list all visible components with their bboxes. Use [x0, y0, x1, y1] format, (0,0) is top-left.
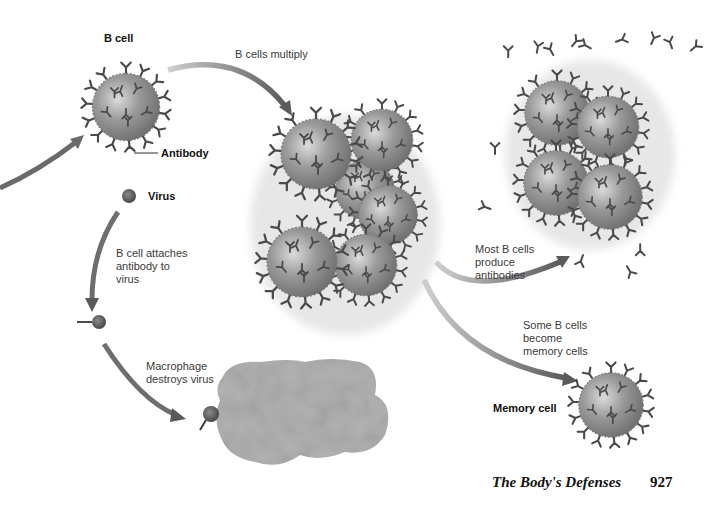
label-line: become: [523, 332, 588, 345]
label-memory-cell: Memory cell: [493, 402, 557, 415]
label-line: produce: [475, 256, 534, 269]
label-line: Some B cells: [523, 319, 588, 332]
label-line: destroys virus: [146, 373, 214, 386]
b-cell: [81, 63, 170, 152]
label-line: memory cells: [523, 345, 588, 358]
label-line: Most B cells: [475, 243, 534, 256]
label-b-cell-attaches: B cell attaches antibody to virus: [116, 247, 188, 286]
macrophage: [216, 359, 388, 465]
label-b-cells-multiply: B cells multiply: [235, 48, 308, 61]
label-line: B cell attaches: [116, 247, 188, 260]
antibody-bound-virus: [77, 315, 106, 329]
label-virus: Virus: [148, 190, 175, 203]
label-line: Macrophage: [146, 360, 214, 373]
arrow-virus-to-attach: [85, 212, 118, 312]
virus: [122, 189, 136, 203]
label-line: virus: [116, 273, 188, 286]
label-line: antibodies: [475, 269, 534, 282]
antibody-producing-cluster: [505, 60, 675, 250]
immune-response-diagram: [0, 0, 707, 507]
label-line: antibody to: [116, 260, 188, 273]
label-some-b-cells: Some B cells become memory cells: [523, 319, 588, 358]
b-cell-cluster: [250, 99, 440, 335]
label-macrophage-destroys: Macrophage destroys virus: [146, 360, 214, 386]
label-b-cell: B cell: [104, 32, 133, 45]
page-running-title: The Body's Defenses: [492, 474, 621, 491]
page-number: 927: [650, 474, 673, 491]
arrow-incoming: [0, 135, 84, 188]
virus-at-macrophage: [200, 406, 219, 430]
label-antibody: Antibody: [161, 147, 209, 160]
arrow-b-cells-multiply: [168, 65, 292, 116]
label-most-b-cells: Most B cells produce antibodies: [475, 243, 534, 282]
memory-cell: [568, 362, 653, 447]
